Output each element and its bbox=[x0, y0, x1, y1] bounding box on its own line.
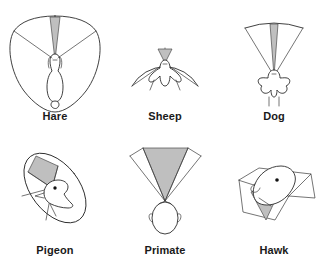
panel-pigeon: Pigeon bbox=[0, 136, 110, 261]
hare-visual-field-diagram bbox=[0, 2, 110, 114]
pigeon-eye-icon bbox=[53, 186, 56, 189]
panel-label-sheep: Sheep bbox=[110, 110, 220, 123]
primate-right-ear bbox=[178, 214, 181, 222]
panel-label-primate: Primate bbox=[110, 244, 220, 257]
pigeon-beak bbox=[35, 193, 44, 198]
hare-body-outline bbox=[47, 54, 63, 102]
dog-right-field-line bbox=[274, 28, 303, 76]
primate-left-arc bbox=[130, 148, 143, 156]
panel-label-hawk: Hawk bbox=[219, 244, 329, 257]
primate-head-outline bbox=[152, 202, 178, 234]
primate-binocular-overlap-wedge bbox=[143, 148, 188, 201]
hawk-eye-icon bbox=[275, 178, 279, 182]
hare-right-field-line bbox=[55, 31, 96, 60]
hare-left-field-line bbox=[14, 31, 55, 60]
visual-fields-figure: Hare Sheep bbox=[0, 0, 329, 261]
sheep-visual-field-diagram bbox=[110, 2, 220, 114]
hawk-head-outline bbox=[253, 166, 295, 205]
hare-tail bbox=[51, 101, 59, 109]
primate-left-ear bbox=[149, 214, 152, 222]
panel-dog: Dog bbox=[219, 2, 329, 132]
pigeon-head-outline bbox=[44, 180, 73, 208]
panel-hawk: Hawk bbox=[219, 136, 329, 261]
primate-right-arc bbox=[188, 148, 201, 156]
dog-visual-field-diagram bbox=[219, 2, 329, 114]
pigeon-visual-field-diagram bbox=[0, 136, 110, 248]
primate-visual-field-diagram bbox=[110, 136, 220, 248]
panel-label-hare: Hare bbox=[0, 110, 110, 123]
panel-sheep: Sheep bbox=[110, 2, 220, 132]
panel-label-dog: Dog bbox=[219, 110, 329, 123]
panel-hare: Hare bbox=[0, 2, 110, 132]
panel-primate: Primate bbox=[110, 136, 220, 261]
panel-label-pigeon: Pigeon bbox=[0, 244, 110, 257]
dog-left-field-line bbox=[245, 28, 274, 76]
hawk-visual-field-diagram bbox=[219, 136, 329, 248]
dog-binocular-overlap-wedge bbox=[270, 24, 278, 76]
